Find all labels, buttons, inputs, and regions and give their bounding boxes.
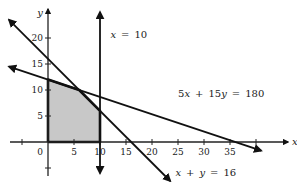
x-tick-label: 5 — [71, 147, 77, 157]
y-tick-label: 10 — [32, 85, 44, 95]
x-tick-label: 15 — [120, 147, 132, 157]
constraint-line-1 — [9, 20, 170, 181]
constraint-label-1: x + y = 16 — [175, 167, 236, 178]
x-tick-label: 20 — [146, 147, 158, 157]
y-tick-label: 20 — [32, 33, 44, 43]
constraint-label-2: 5x + 15y = 180 — [178, 88, 264, 99]
x-tick-label: 30 — [198, 147, 210, 157]
y-tick-label: 15 — [32, 59, 44, 69]
linear-programming-graph: 510152025303551015200xy x = 10x + y = 16… — [0, 0, 297, 194]
labels: x = 10x + y = 165x + 15y = 180 — [110, 29, 264, 178]
origin-label: 0 — [37, 147, 43, 157]
constraint-label-0: x = 10 — [110, 29, 147, 40]
y-axis-label: y — [36, 7, 43, 18]
x-tick-label: 25 — [172, 147, 184, 157]
x-tick-label: 35 — [224, 147, 236, 157]
y-tick-label: 5 — [37, 111, 43, 121]
x-axis-label: x — [292, 136, 297, 147]
